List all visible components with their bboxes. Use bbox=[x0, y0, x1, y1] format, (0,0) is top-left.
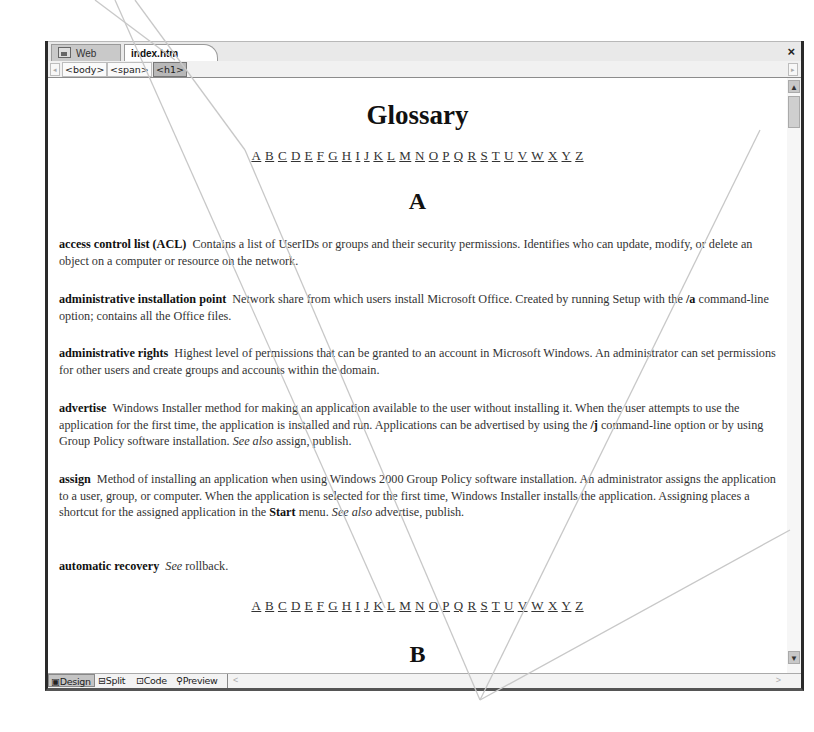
design-view-button[interactable]: ▣Design bbox=[48, 674, 95, 687]
letter-link-i[interactable]: I bbox=[355, 598, 360, 613]
letter-link-p[interactable]: P bbox=[442, 598, 450, 613]
editor-window: Web Site index.htm × ◂ <body> <span> <h1… bbox=[45, 41, 804, 691]
definition-text: rollback. bbox=[182, 559, 228, 573]
letter-link-q[interactable]: Q bbox=[454, 148, 464, 163]
letter-link-x[interactable]: X bbox=[548, 598, 558, 613]
chevron-down-icon: ▼ bbox=[790, 654, 798, 663]
glossary-term: automatic recovery bbox=[59, 559, 159, 573]
letter-link-k[interactable]: K bbox=[373, 598, 383, 613]
website-icon bbox=[58, 47, 71, 58]
section-heading-b: B bbox=[48, 641, 787, 668]
letter-link-b[interactable]: B bbox=[265, 148, 274, 163]
definition-text: Start bbox=[269, 505, 295, 519]
preview-view-icon: ⚲ bbox=[176, 675, 183, 686]
letter-link-r[interactable]: R bbox=[467, 598, 476, 613]
letter-link-a[interactable]: A bbox=[251, 598, 261, 613]
letter-link-t[interactable]: T bbox=[492, 598, 500, 613]
letter-link-l[interactable]: L bbox=[387, 598, 395, 613]
divider bbox=[227, 674, 228, 688]
tag-scroll-left-button[interactable]: ◂ bbox=[50, 63, 60, 76]
letter-index-bottom: A B C D E F G H I J K L M N O P Q R S T … bbox=[48, 598, 787, 614]
split-view-icon: ⊟ bbox=[98, 675, 106, 686]
horizontal-scroll-right-button[interactable]: > bbox=[776, 674, 781, 687]
design-view-icon: ▣ bbox=[51, 676, 60, 687]
letter-link-x[interactable]: X bbox=[548, 148, 558, 163]
letter-link-o[interactable]: O bbox=[429, 598, 439, 613]
close-document-button[interactable]: × bbox=[787, 44, 795, 59]
letter-link-v[interactable]: V bbox=[518, 148, 528, 163]
letter-link-n[interactable]: N bbox=[415, 148, 425, 163]
letter-link-c[interactable]: C bbox=[278, 148, 287, 163]
chevron-right-icon: ▸ bbox=[791, 66, 795, 73]
glossary-entry: automatic recoverySee rollback. bbox=[59, 558, 782, 575]
letter-link-z[interactable]: Z bbox=[575, 598, 583, 613]
code-view-button[interactable]: ⊡Code bbox=[136, 674, 167, 687]
document-tab-bar: Web Site index.htm × bbox=[48, 41, 801, 63]
letter-link-h[interactable]: H bbox=[342, 148, 352, 163]
letter-link-q[interactable]: Q bbox=[454, 598, 464, 613]
letter-link-m[interactable]: M bbox=[399, 598, 411, 613]
letter-link-e[interactable]: E bbox=[305, 598, 313, 613]
glossary-entry: administrative installation pointNetwork… bbox=[59, 291, 782, 324]
letter-link-s[interactable]: S bbox=[480, 598, 488, 613]
tag-h1[interactable]: <h1> bbox=[153, 62, 187, 77]
definition-text: See also bbox=[332, 505, 372, 519]
letter-link-w[interactable]: W bbox=[531, 598, 544, 613]
definition-text: advertise, publish. bbox=[372, 505, 464, 519]
letter-link-y[interactable]: Y bbox=[562, 148, 572, 163]
tag-scroll-right-button[interactable]: ▸ bbox=[788, 63, 798, 76]
scroll-up-button[interactable]: ▲ bbox=[788, 80, 800, 93]
letter-link-p[interactable]: P bbox=[442, 148, 450, 163]
letter-link-f[interactable]: F bbox=[317, 148, 325, 163]
letter-link-a[interactable]: A bbox=[251, 148, 261, 163]
letter-link-o[interactable]: O bbox=[429, 148, 439, 163]
letter-link-s[interactable]: S bbox=[480, 148, 488, 163]
letter-link-e[interactable]: E bbox=[305, 148, 313, 163]
letter-link-h[interactable]: H bbox=[342, 598, 352, 613]
tab-index-htm[interactable]: index.htm bbox=[124, 44, 218, 61]
view-mode-bar: ▣Design ⊟Split ⊡Code ⚲Preview < > bbox=[48, 673, 801, 688]
tag-body[interactable]: <body> bbox=[62, 62, 107, 77]
section-heading-a: A bbox=[48, 188, 787, 215]
scroll-thumb[interactable] bbox=[788, 96, 800, 128]
letter-link-w[interactable]: W bbox=[531, 148, 544, 163]
letter-link-y[interactable]: Y bbox=[562, 598, 572, 613]
chevron-up-icon: ▲ bbox=[790, 83, 798, 92]
split-view-button[interactable]: ⊟Split bbox=[98, 674, 125, 687]
letter-link-u[interactable]: U bbox=[504, 148, 514, 163]
letter-link-b[interactable]: B bbox=[265, 598, 274, 613]
preview-view-button[interactable]: ⚲Preview bbox=[176, 674, 218, 687]
letter-link-g[interactable]: G bbox=[328, 598, 338, 613]
glossary-entry: administrative rightsHighest level of pe… bbox=[59, 345, 782, 378]
letter-link-c[interactable]: C bbox=[278, 598, 287, 613]
letter-link-i[interactable]: I bbox=[355, 148, 360, 163]
letter-link-j[interactable]: J bbox=[364, 598, 370, 613]
vertical-scrollbar[interactable]: ▲ ▼ bbox=[787, 78, 801, 674]
letter-link-z[interactable]: Z bbox=[575, 148, 583, 163]
tag-span[interactable]: <span> bbox=[107, 62, 152, 77]
definition-text: Network share from which users install M… bbox=[232, 292, 686, 306]
definition-text: assign, publish. bbox=[273, 434, 352, 448]
letter-link-u[interactable]: U bbox=[504, 598, 514, 613]
letter-link-d[interactable]: D bbox=[291, 598, 301, 613]
code-view-icon: ⊡ bbox=[136, 675, 144, 686]
tab-web-site[interactable]: Web Site bbox=[51, 44, 121, 61]
letter-link-d[interactable]: D bbox=[291, 148, 301, 163]
letter-link-g[interactable]: G bbox=[328, 148, 338, 163]
letter-link-f[interactable]: F bbox=[317, 598, 325, 613]
letter-link-t[interactable]: T bbox=[492, 148, 500, 163]
glossary-entry: advertiseWindows Installer method for ma… bbox=[59, 400, 782, 450]
horizontal-scroll-left-button[interactable]: < bbox=[233, 674, 238, 687]
design-view-content[interactable]: Glossary A B C D E F G H I J K L M N O P… bbox=[48, 78, 787, 674]
letter-link-r[interactable]: R bbox=[467, 148, 476, 163]
letter-link-j[interactable]: J bbox=[364, 148, 370, 163]
page-title: Glossary bbox=[48, 100, 787, 131]
letter-link-n[interactable]: N bbox=[415, 598, 425, 613]
letter-link-v[interactable]: V bbox=[518, 598, 528, 613]
letter-link-k[interactable]: K bbox=[373, 148, 383, 163]
letter-link-l[interactable]: L bbox=[387, 148, 395, 163]
letter-link-m[interactable]: M bbox=[399, 148, 411, 163]
scroll-down-button[interactable]: ▼ bbox=[788, 651, 800, 664]
glossary-term: access control list (ACL) bbox=[59, 237, 186, 251]
definition-text: See bbox=[165, 559, 182, 573]
